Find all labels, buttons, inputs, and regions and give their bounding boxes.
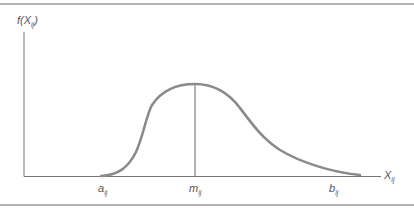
tick-m-main: m	[189, 182, 198, 194]
y-axis-label: f(Xij)	[17, 15, 38, 28]
x-axis-label-sub: ij	[391, 176, 394, 183]
tick-b-sub: ij	[335, 189, 338, 196]
tick-m-sub: ij	[198, 189, 201, 196]
density-diagram	[0, 0, 414, 208]
y-axis-label-close: )	[34, 14, 38, 26]
tick-label-m: mij	[189, 183, 201, 196]
density-curve	[101, 84, 360, 176]
tick-label-a: aij	[98, 183, 107, 196]
x-axis-label: Xij	[384, 170, 394, 183]
y-axis-label-main: f(X	[17, 14, 31, 26]
tick-label-b: bij	[329, 183, 338, 196]
tick-a-sub: ij	[104, 189, 107, 196]
